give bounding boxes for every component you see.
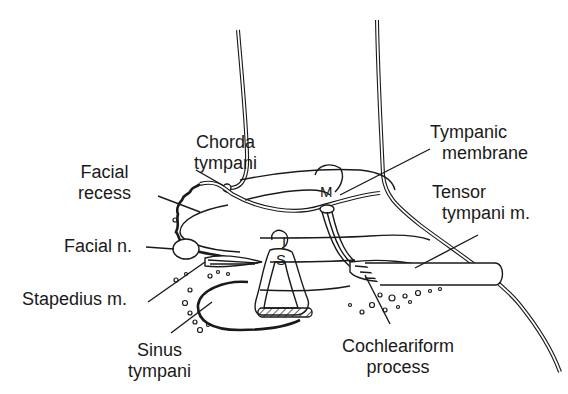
label-line: tympani m. xyxy=(432,203,530,224)
label-line: recess xyxy=(78,183,131,204)
label-line: membrane xyxy=(430,143,528,164)
label-line: Chorda xyxy=(194,132,257,153)
incus-marker: I xyxy=(282,233,286,250)
anatomy-figure: M I S xyxy=(0,0,568,394)
label-facial-recess: Facial recess xyxy=(78,162,131,204)
malleus-umbo xyxy=(320,205,334,213)
malleus-marker: M xyxy=(320,183,333,200)
label-line: tympani xyxy=(194,153,257,174)
label-chorda-tympani: Chorda tympani xyxy=(194,132,257,174)
label-tympanic-membrane: Tympanic membrane xyxy=(430,122,528,164)
stapes-marker: S xyxy=(276,251,286,268)
label-cochleariform-process: Cochleariform process xyxy=(342,336,454,378)
label-tensor-tympani: Tensor tympani m. xyxy=(432,182,530,224)
label-sinus-tympani: Sinus tympani xyxy=(128,340,191,382)
facial-nerve xyxy=(173,239,199,259)
leader-lines xyxy=(146,149,478,333)
label-line: process xyxy=(342,357,454,378)
label-line: Tympanic xyxy=(430,122,528,143)
label-facial-nerve: Facial n. xyxy=(64,236,132,257)
stapes-footplate xyxy=(258,308,312,317)
label-line: tympani xyxy=(128,361,191,382)
label-line: Sinus xyxy=(128,340,191,361)
label-line: Cochleariform xyxy=(342,336,454,357)
label-line: Facial xyxy=(78,162,131,183)
label-line: Tensor xyxy=(432,182,530,203)
label-stapedius-muscle: Stapedius m. xyxy=(22,289,127,310)
